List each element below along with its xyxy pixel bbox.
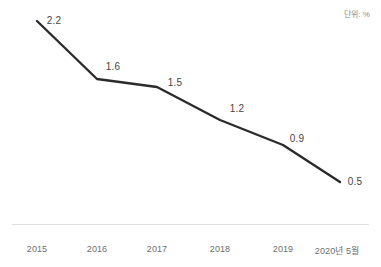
data-label: 1.2 bbox=[230, 103, 245, 114]
x-axis-tick-label: 2018 bbox=[210, 244, 230, 254]
data-label: 2.2 bbox=[47, 15, 62, 26]
x-axis-tick-label: 2017 bbox=[147, 244, 167, 254]
x-axis-tick-label: 2015 bbox=[27, 244, 47, 254]
x-axis-tick-label: 2020년 5월 bbox=[315, 244, 359, 257]
data-label: 1.5 bbox=[168, 77, 183, 88]
chart-plot-area bbox=[0, 0, 381, 267]
series-line bbox=[37, 21, 340, 182]
data-label: 0.9 bbox=[290, 133, 305, 144]
data-label: 0.5 bbox=[348, 176, 363, 187]
data-label: 1.6 bbox=[106, 61, 121, 72]
line-chart: 단위: % 2.21.61.51.20.90.5 201520162017201… bbox=[0, 0, 381, 267]
x-axis-line bbox=[12, 224, 369, 225]
x-axis-tick-label: 2019 bbox=[273, 244, 293, 254]
x-axis-tick-label: 2016 bbox=[87, 244, 107, 254]
